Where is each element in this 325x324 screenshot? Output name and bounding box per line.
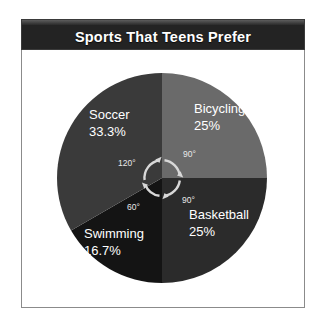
- title-bar-sheen: [22, 20, 304, 25]
- slice-label-swimming-name: Swimming: [84, 226, 144, 241]
- angle-label-bicycling: 90°: [183, 149, 196, 159]
- angle-label-soccer: 120°: [118, 158, 136, 168]
- chart-title-bar: Sports That Teens Prefer: [21, 19, 305, 50]
- slice-label-soccer-name: Soccer: [89, 107, 130, 122]
- slice-label-soccer-value: 33.3%: [89, 124, 126, 139]
- slice-label-basketball-value: 25%: [189, 224, 215, 239]
- page-title: Sports That Teens Prefer: [22, 26, 304, 48]
- slice-label-basketball-name: Basketball: [189, 207, 249, 222]
- pie-svg: Bicycling 25% Basketball 25% Swimming 16…: [22, 50, 304, 306]
- slice-label-bicycling-value: 25%: [194, 118, 220, 133]
- angle-label-basketball: 90°: [182, 195, 195, 205]
- pie-plot-area: Bicycling 25% Basketball 25% Swimming 16…: [22, 50, 304, 306]
- pie-chart-figure: Sports That Teens Prefer Bicycling 25% B…: [0, 0, 325, 324]
- slice-label-bicycling-name: Bicycling: [194, 101, 245, 116]
- angle-label-swimming: 60°: [127, 202, 140, 212]
- slice-label-swimming-value: 16.7%: [84, 243, 121, 258]
